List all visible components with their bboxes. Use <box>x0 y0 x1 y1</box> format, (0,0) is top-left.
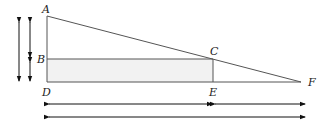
label-b: B <box>36 53 45 66</box>
label-f: F <box>307 76 316 89</box>
diagram-canvas: A B C D E F <box>0 0 329 127</box>
label-d: D <box>41 86 51 99</box>
label-c: C <box>210 45 219 58</box>
rectangle-bdec <box>47 59 213 82</box>
label-a: A <box>41 3 50 16</box>
label-e: E <box>208 86 217 99</box>
